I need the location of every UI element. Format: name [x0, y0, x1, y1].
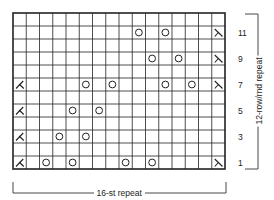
- row-label-1: 1: [238, 158, 243, 168]
- yarn-over-icon: [149, 55, 156, 62]
- yarn-over-icon: [162, 81, 169, 88]
- left-decrease-icon: [16, 107, 24, 115]
- left-decrease-icon: [16, 133, 24, 141]
- right-decrease-icon: [215, 159, 223, 167]
- right-decrease-icon: [215, 81, 223, 89]
- yarn-over-icon: [135, 29, 142, 36]
- row-label-9: 9: [238, 54, 243, 64]
- row-label-3: 3: [238, 132, 243, 142]
- chart-grid: [13, 13, 225, 169]
- yarn-over-icon: [188, 81, 195, 88]
- left-decrease-icon: [16, 159, 24, 167]
- repeat-brackets: [13, 14, 258, 193]
- row-label-5: 5: [238, 106, 243, 116]
- yarn-over-icon: [56, 133, 63, 140]
- yarn-over-icon: [69, 159, 76, 166]
- yarn-over-icon: [82, 81, 89, 88]
- yarn-over-icon: [82, 133, 89, 140]
- yarn-over-icon: [109, 81, 116, 88]
- stitch-repeat-label: 16-st repeat: [94, 188, 145, 198]
- knitting-chart: [0, 0, 274, 200]
- yarn-over-icon: [162, 29, 169, 36]
- row-label-7: 7: [238, 80, 243, 90]
- yarn-over-icon: [122, 159, 129, 166]
- yarn-over-icon: [175, 55, 182, 62]
- yarn-over-icon: [96, 107, 103, 114]
- yarn-over-icon: [149, 159, 156, 166]
- row-label-11: 11: [238, 28, 247, 38]
- left-decrease-icon: [16, 81, 24, 89]
- row-repeat-label: 12-row/rnd repeat: [253, 55, 263, 126]
- right-decrease-icon: [215, 29, 223, 37]
- right-decrease-icon: [215, 55, 223, 63]
- yarn-over-icon: [69, 107, 76, 114]
- yarn-over-icon: [43, 159, 50, 166]
